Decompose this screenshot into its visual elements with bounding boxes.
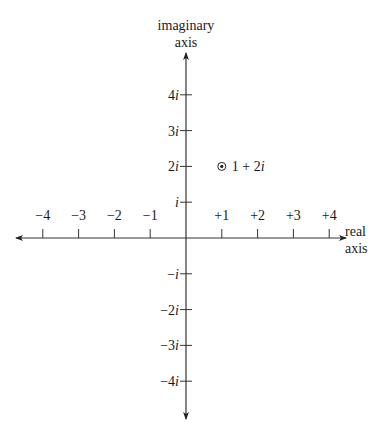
complex-plane-diagram: imaginary axis real axis −4−3−2−1+1+2+3+… — [0, 0, 387, 434]
imaginary-tick-label: 2i — [168, 159, 179, 174]
imaginary-axis-title: imaginary — [158, 18, 215, 33]
real-tick-label: +4 — [322, 208, 337, 223]
real-tick-label: +3 — [286, 208, 301, 223]
real-tick-label: +1 — [214, 208, 229, 223]
imaginary-tick-label: i — [175, 195, 179, 210]
point-label: 1 + 2i — [232, 159, 265, 174]
point-marker-dot — [220, 165, 223, 168]
imaginary-axis-title: axis — [175, 35, 198, 50]
real-tick-label: +2 — [250, 208, 265, 223]
real-axis-title: axis — [345, 241, 368, 256]
imaginary-tick-label: −3i — [160, 338, 179, 353]
imaginary-tick-label: −i — [167, 267, 179, 282]
imaginary-tick-label: 4i — [168, 88, 179, 103]
point-1-plus-2i: 1 + 2i — [218, 159, 265, 174]
real-tick-label: −1 — [143, 208, 158, 223]
real-axis-title: real — [345, 224, 366, 239]
real-tick-label: −2 — [107, 208, 122, 223]
real-tick-label: −4 — [35, 208, 50, 223]
imaginary-tick-label: −4i — [160, 374, 179, 389]
imaginary-tick-label: −2i — [160, 303, 179, 318]
real-tick-label: −3 — [71, 208, 86, 223]
imaginary-tick-label: 3i — [168, 124, 179, 139]
